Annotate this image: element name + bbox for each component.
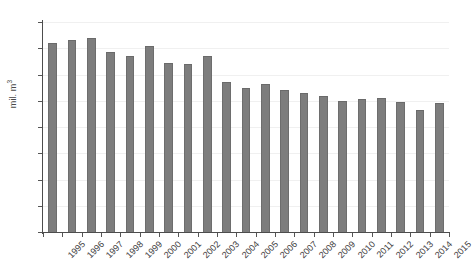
- x-tick-label: 2006: [278, 239, 299, 260]
- bar: [126, 56, 135, 232]
- x-tick-mark: [372, 233, 373, 237]
- y-tick-mark: [38, 153, 42, 154]
- x-tick-mark: [275, 233, 276, 237]
- x-tick-label: 1999: [143, 239, 164, 260]
- bar: [280, 90, 289, 232]
- x-tick-label: 1995: [66, 239, 87, 260]
- bar: [184, 64, 193, 232]
- y-tick-mark: [38, 232, 42, 233]
- x-tick-label: 2014: [433, 239, 454, 260]
- y-tick-mark: [38, 75, 42, 76]
- x-tick-mark: [333, 233, 334, 237]
- x-tick-mark: [430, 233, 431, 237]
- x-tick-label: 2010: [356, 239, 377, 260]
- x-tick-mark: [178, 233, 179, 237]
- x-tick-label: 2001: [182, 239, 203, 260]
- x-tick-mark: [256, 233, 257, 237]
- x-tick-mark: [140, 233, 141, 237]
- x-tick-label: 1998: [124, 239, 145, 260]
- bar: [416, 110, 425, 232]
- x-tick-label: 2002: [201, 239, 222, 260]
- y-axis-title-superscript: 3: [6, 80, 13, 84]
- bar: [358, 99, 367, 232]
- x-tick-mark: [198, 233, 199, 237]
- bar: [261, 84, 270, 232]
- x-tick-label: 2003: [220, 239, 241, 260]
- y-tick-mark: [38, 127, 42, 128]
- x-tick-label: 2000: [162, 239, 183, 260]
- bar: [106, 52, 115, 232]
- bars-layer: [43, 22, 449, 232]
- y-tick-mark: [38, 101, 42, 102]
- x-tick-label: 2004: [240, 239, 261, 260]
- x-tick-mark: [352, 233, 353, 237]
- x-tick-mark: [314, 233, 315, 237]
- y-tick-mark: [38, 22, 42, 23]
- bar: [338, 101, 347, 232]
- x-tick-mark: [43, 233, 44, 237]
- bar: [435, 103, 444, 232]
- x-tick-label: 2005: [259, 239, 280, 260]
- y-axis-title-text: mil. m: [8, 84, 18, 109]
- y-tick-mark: [38, 180, 42, 181]
- x-tick-label: 2007: [298, 239, 319, 260]
- x-tick-mark: [82, 233, 83, 237]
- x-tick-mark: [120, 233, 121, 237]
- x-tick-mark: [101, 233, 102, 237]
- x-axis-line: [42, 232, 450, 233]
- y-tick-mark: [38, 206, 42, 207]
- plot-area: [43, 22, 449, 232]
- x-tick-label: 2012: [394, 239, 415, 260]
- x-tick-label: 2011: [375, 239, 396, 260]
- y-tick-mark: [38, 48, 42, 49]
- x-tick-mark: [62, 233, 63, 237]
- x-tick-mark: [391, 233, 392, 237]
- x-tick-label: 1997: [104, 239, 125, 260]
- bar: [145, 46, 154, 232]
- x-tick-label: 2013: [414, 239, 435, 260]
- bar: [164, 63, 173, 232]
- x-tick-label: 2008: [317, 239, 338, 260]
- x-tick-mark: [217, 233, 218, 237]
- bar: [300, 93, 309, 232]
- bar: [48, 43, 57, 232]
- bar: [203, 56, 212, 232]
- x-tick-mark: [410, 233, 411, 237]
- x-tick-mark: [236, 233, 237, 237]
- bar: [396, 102, 405, 232]
- x-tick-mark: [449, 233, 450, 237]
- y-axis-title: mil. m3: [6, 64, 18, 124]
- bar: [222, 82, 231, 232]
- bar: [377, 98, 386, 232]
- x-tick-mark: [294, 233, 295, 237]
- x-tick-label: 2009: [336, 239, 357, 260]
- bar: [319, 96, 328, 233]
- bar: [68, 40, 77, 232]
- x-tick-label: 2015: [452, 239, 473, 260]
- x-tick-mark: [159, 233, 160, 237]
- bar: [87, 38, 96, 232]
- bar: [242, 88, 251, 232]
- x-tick-label: 1996: [85, 239, 106, 260]
